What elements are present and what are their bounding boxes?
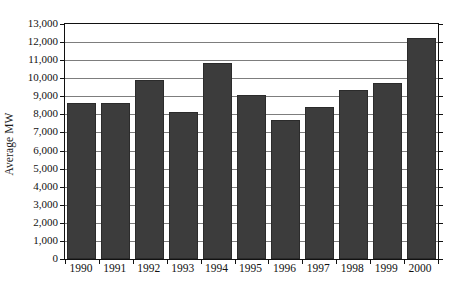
y-axis-tick-label: 9,000 — [33, 90, 58, 101]
y-axis-tick-mark — [439, 24, 443, 25]
y-axis-tick-mark — [60, 96, 64, 97]
bar — [67, 103, 96, 259]
x-axis-tick-label: 1991 — [103, 262, 126, 275]
y-axis-tick-mark — [439, 169, 443, 170]
y-axis-tick-mark — [60, 42, 64, 43]
bar — [135, 80, 164, 259]
y-axis-tick-mark — [60, 24, 64, 25]
plot-area — [64, 23, 439, 260]
bar — [203, 63, 232, 259]
bar — [169, 112, 198, 259]
x-axis-tick-label: 1990 — [69, 262, 92, 275]
bar-series — [65, 24, 438, 259]
y-axis-tick-mark — [439, 259, 443, 260]
y-axis-tick-mark — [439, 96, 443, 97]
y-axis-tick-label: 11,000 — [28, 54, 58, 65]
y-axis-tick-mark — [60, 241, 64, 242]
bar — [373, 83, 402, 259]
bar-chart: Average MW 01,0002,0003,0004,0005,0006,0… — [0, 0, 453, 288]
x-axis-tick-label: 1998 — [341, 262, 364, 275]
y-axis-tick-label: 0 — [53, 253, 59, 264]
y-axis-tick-mark — [439, 241, 443, 242]
y-axis-tick-label: 2,000 — [33, 216, 58, 227]
y-axis-tick-mark — [60, 151, 64, 152]
x-axis-tick-label: 1997 — [307, 262, 330, 275]
y-axis-tick-label: 1,000 — [33, 234, 58, 245]
y-axis-tick-label: 7,000 — [33, 126, 58, 137]
y-axis-tick-label: 8,000 — [33, 108, 58, 119]
x-axis-tick-label: 1995 — [239, 262, 262, 275]
y-axis-tick-mark — [60, 60, 64, 61]
y-axis-tick-label: 3,000 — [33, 198, 58, 209]
y-axis-tick-mark — [439, 132, 443, 133]
y-axis-tick-mark — [439, 42, 443, 43]
y-axis-tick-mark — [439, 60, 443, 61]
y-axis-tick-label: 4,000 — [33, 180, 58, 191]
bar — [339, 90, 368, 259]
y-axis-tick-labels: 01,0002,0003,0004,0005,0006,0007,0008,00… — [18, 17, 62, 263]
y-axis-title: Average MW — [0, 0, 18, 288]
y-axis-tick-mark — [60, 132, 64, 133]
y-axis-tick-mark — [439, 187, 443, 188]
bar — [407, 38, 436, 259]
y-axis-tick-label: 5,000 — [33, 162, 58, 173]
y-axis-tick-label: 10,000 — [28, 72, 58, 83]
x-axis-tick-label: 1993 — [171, 262, 194, 275]
y-axis-tick-mark — [60, 223, 64, 224]
bar — [101, 103, 130, 259]
y-axis-title-label: Average MW — [3, 112, 15, 175]
y-axis-tick-mark — [60, 205, 64, 206]
y-axis-tick-mark — [439, 151, 443, 152]
y-axis-tick-mark — [60, 114, 64, 115]
x-axis-tick-label: 1996 — [273, 262, 296, 275]
y-axis-tick-mark — [439, 223, 443, 224]
y-axis-tick-mark — [60, 169, 64, 170]
x-axis-tick-label: 1994 — [205, 262, 228, 275]
y-axis-tick-label: 6,000 — [33, 144, 58, 155]
y-axis-tick-mark — [60, 259, 64, 260]
y-axis-tick-mark — [60, 78, 64, 79]
y-axis-tick-label: 12,000 — [28, 36, 58, 47]
y-axis-tick-mark — [439, 114, 443, 115]
y-axis-tick-mark — [439, 205, 443, 206]
x-axis-tick-label: 1999 — [375, 262, 398, 275]
x-axis-tick-label: 2000 — [409, 262, 432, 275]
x-axis-tick-mark — [438, 259, 439, 264]
bar — [271, 120, 300, 259]
bar — [237, 95, 266, 260]
plot-inner — [65, 24, 438, 259]
x-axis-tick-label: 1992 — [137, 262, 160, 275]
x-axis-tick-labels: 1990199119921993199419951996199719981999… — [64, 262, 437, 284]
y-axis-tick-label: 13,000 — [28, 18, 58, 29]
y-axis-tick-mark — [60, 187, 64, 188]
y-axis-tick-mark — [439, 78, 443, 79]
bar — [305, 107, 334, 259]
